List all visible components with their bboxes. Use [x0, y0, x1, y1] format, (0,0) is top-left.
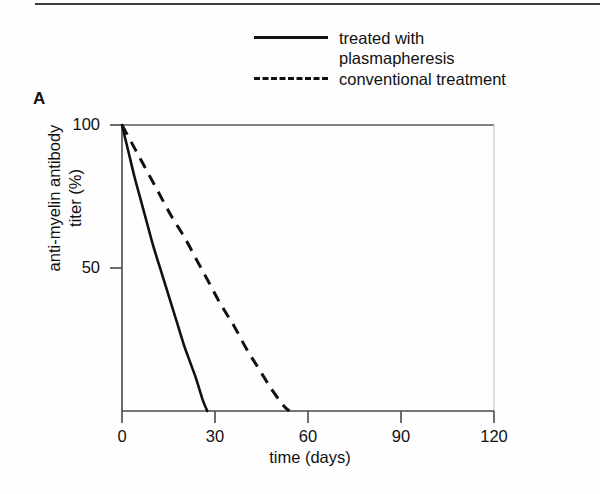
- x-tick-label-0: 0: [97, 427, 147, 446]
- x-axis-title: time (days): [200, 448, 420, 467]
- y-axis-title-wrapper: anti-myelin antibody titer (%): [35, 88, 95, 308]
- x-tick-label-60: 60: [283, 427, 333, 446]
- x-tick-label-30: 30: [190, 427, 240, 446]
- y-axis-title: anti-myelin antibody titer (%): [44, 125, 86, 272]
- series-line-conventional: [122, 125, 289, 411]
- series-line-plasmapheresis: [122, 125, 207, 411]
- chart-plot-area: 100 50 0 30 60 90 120 anti-myelin antibo…: [0, 0, 600, 494]
- x-tick-label-90: 90: [376, 427, 426, 446]
- x-tick-label-120: 120: [469, 427, 519, 446]
